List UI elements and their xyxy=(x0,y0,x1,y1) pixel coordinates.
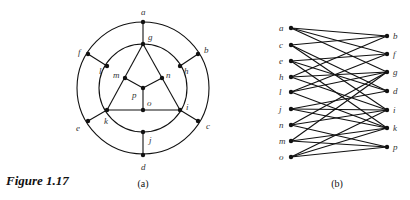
edge-o-k xyxy=(291,128,387,157)
panel-a-label: (a) xyxy=(137,178,148,190)
vertex-label-a: a xyxy=(141,7,146,17)
vertex-p xyxy=(141,86,145,90)
vertex-label-c: c xyxy=(206,121,210,131)
vertex-a xyxy=(141,20,145,24)
vertex-h xyxy=(178,64,182,68)
vertex-label-d: d xyxy=(141,162,146,172)
vertex-o xyxy=(141,108,145,112)
vertex-label-m: m xyxy=(113,70,120,80)
panel-b-bipartite-graph: acehljnmobfgdikp xyxy=(278,23,398,162)
vertex-label-i: i xyxy=(393,105,396,115)
vertex-label-f: f xyxy=(393,49,397,59)
edge-o-p xyxy=(291,147,387,157)
vertex-label-i: i xyxy=(186,102,189,112)
vertex-i xyxy=(385,108,389,112)
vertex-label-o: o xyxy=(279,152,284,162)
vertex-e xyxy=(86,119,90,123)
vertex-label-p: p xyxy=(131,90,137,100)
vertex-label-l: l xyxy=(279,87,282,97)
vertex-label-o: o xyxy=(147,98,152,108)
vertex-label-e: e xyxy=(279,56,283,66)
edge-c-b xyxy=(291,36,387,45)
vertex-label-j: j xyxy=(278,104,282,114)
vertex-c xyxy=(196,119,200,123)
panel-a-graph: abcdefghijklmnop xyxy=(76,7,210,172)
vertex-label-e: e xyxy=(76,123,80,133)
edge-h-b xyxy=(291,36,387,77)
vertex-label-f: f xyxy=(78,47,82,57)
edge-m-p xyxy=(125,78,143,88)
vertex-label-g: g xyxy=(148,32,153,42)
edge-j-i xyxy=(291,109,387,110)
vertex-g xyxy=(141,42,145,46)
vertex-label-b: b xyxy=(204,45,209,55)
vertex-o xyxy=(289,155,293,159)
vertex-p xyxy=(385,145,389,149)
vertex-label-m: m xyxy=(279,136,286,146)
vertex-d xyxy=(385,89,389,93)
vertex-b xyxy=(196,52,200,56)
vertex-label-j: j xyxy=(148,135,152,145)
vertex-label-g: g xyxy=(393,67,398,77)
vertex-m xyxy=(289,139,293,143)
vertex-f xyxy=(86,52,90,56)
vertex-c xyxy=(289,43,293,47)
vertex-g xyxy=(385,70,389,74)
vertex-a xyxy=(289,26,293,30)
vertex-label-k: k xyxy=(393,123,398,133)
vertex-d xyxy=(141,153,145,157)
vertex-f xyxy=(385,52,389,56)
vertex-label-a: a xyxy=(279,23,284,33)
edge-c-d xyxy=(291,45,387,91)
vertex-label-b: b xyxy=(393,31,398,41)
panel-b-label: (b) xyxy=(331,178,343,190)
vertex-label-k: k xyxy=(104,116,109,126)
vertex-j xyxy=(141,130,145,134)
vertex-b xyxy=(385,34,389,38)
vertex-n xyxy=(160,76,164,80)
vertex-label-c: c xyxy=(279,40,283,50)
vertex-l xyxy=(289,90,293,94)
vertex-label-n: n xyxy=(279,120,284,130)
vertex-h xyxy=(289,75,293,79)
vertex-label-d: d xyxy=(393,86,398,96)
vertex-k xyxy=(385,126,389,130)
vertex-j xyxy=(289,107,293,111)
vertex-i xyxy=(178,108,182,112)
vertex-k xyxy=(105,108,109,112)
edge-c-i xyxy=(180,110,198,121)
vertex-m xyxy=(123,76,127,80)
edge-b-h xyxy=(180,54,198,66)
vertex-n xyxy=(289,123,293,127)
vertex-label-p: p xyxy=(392,142,398,152)
vertex-label-n: n xyxy=(166,70,171,80)
vertex-label-h: h xyxy=(184,66,189,76)
vertex-e xyxy=(289,59,293,63)
figure-1-17: abcdefghijklmnop acehljnmobfgdikp Figure… xyxy=(0,0,410,200)
figure-caption: Figure 1.17 xyxy=(5,173,69,188)
vertex-l xyxy=(105,64,109,68)
vertex-label-h: h xyxy=(279,72,284,82)
edge-f-l xyxy=(88,54,107,66)
edge-n-p xyxy=(143,78,162,88)
edge-m-k xyxy=(291,128,387,141)
